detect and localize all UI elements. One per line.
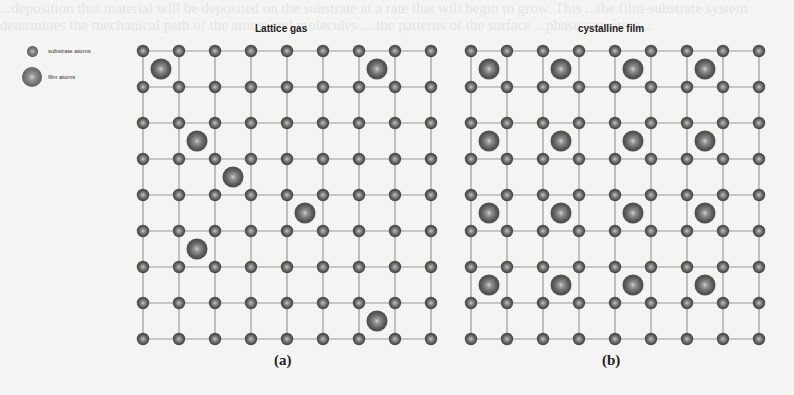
substrate-atom — [609, 225, 621, 237]
substrate-atom — [425, 189, 437, 201]
substrate-atom — [645, 45, 657, 57]
substrate-atom — [281, 81, 293, 93]
substrate-atom — [245, 225, 257, 237]
substrate-atom — [173, 153, 185, 165]
substrate-atom — [645, 153, 657, 165]
film-atom — [479, 131, 500, 152]
substrate-atom — [465, 189, 477, 201]
substrate-atom — [245, 333, 257, 345]
film-atom — [623, 203, 644, 224]
substrate-atom — [717, 189, 729, 201]
substrate-atom — [753, 261, 765, 273]
substrate-atom — [753, 333, 765, 345]
substrate-atom — [609, 297, 621, 309]
substrate-atom — [465, 261, 477, 273]
substrate-atom — [501, 189, 513, 201]
film-atom — [695, 59, 716, 80]
substrate-atom — [573, 153, 585, 165]
substrate-atom — [645, 81, 657, 93]
substrate-atom — [609, 81, 621, 93]
substrate-atom — [537, 333, 549, 345]
substrate-atom — [645, 297, 657, 309]
substrate-atom — [681, 189, 693, 201]
substrate-atom — [209, 333, 221, 345]
substrate-atom — [353, 297, 365, 309]
substrate-atom — [609, 333, 621, 345]
substrate-atom — [245, 153, 257, 165]
substrate-atom — [645, 225, 657, 237]
film-atom — [551, 131, 572, 152]
substrate-atom — [465, 297, 477, 309]
substrate-atom — [537, 297, 549, 309]
substrate-atom — [389, 153, 401, 165]
substrate-atom — [645, 117, 657, 129]
substrate-atom — [465, 45, 477, 57]
substrate-atom — [645, 261, 657, 273]
substrate-atom — [717, 261, 729, 273]
substrate-atom — [753, 45, 765, 57]
film-atom — [623, 275, 644, 296]
substrate-atom — [681, 117, 693, 129]
substrate-atom — [389, 297, 401, 309]
panel-a-caption: (a) — [274, 352, 292, 369]
film-atom — [187, 131, 208, 152]
substrate-atom — [245, 297, 257, 309]
substrate-atom — [501, 297, 513, 309]
substrate-atom — [353, 153, 365, 165]
substrate-atom — [317, 297, 329, 309]
substrate-atom — [173, 81, 185, 93]
substrate-atom — [681, 297, 693, 309]
substrate-atom — [281, 153, 293, 165]
substrate-atom — [317, 261, 329, 273]
substrate-atom — [173, 297, 185, 309]
substrate-atom — [465, 333, 477, 345]
substrate-atom — [317, 189, 329, 201]
substrate-atom — [317, 153, 329, 165]
film-atom — [367, 59, 388, 80]
substrate-atom — [281, 45, 293, 57]
substrate-atom — [353, 117, 365, 129]
substrate-atom — [281, 189, 293, 201]
substrate-atom — [137, 117, 149, 129]
substrate-atom — [137, 297, 149, 309]
substrate-atom — [173, 117, 185, 129]
substrate-atom — [645, 333, 657, 345]
substrate-atom — [501, 225, 513, 237]
substrate-atom — [501, 333, 513, 345]
substrate-atom — [645, 189, 657, 201]
substrate-atom — [137, 189, 149, 201]
substrate-atom — [425, 45, 437, 57]
substrate-atom — [537, 153, 549, 165]
substrate-atom — [281, 333, 293, 345]
film-atom — [695, 131, 716, 152]
substrate-atom — [501, 153, 513, 165]
substrate-atom — [317, 117, 329, 129]
film-atom — [623, 131, 644, 152]
substrate-atom — [353, 333, 365, 345]
substrate-atom — [501, 261, 513, 273]
substrate-atom — [353, 45, 365, 57]
substrate-atom — [173, 261, 185, 273]
substrate-atom — [573, 117, 585, 129]
substrate-atom — [573, 45, 585, 57]
substrate-atom — [753, 153, 765, 165]
substrate-atom — [389, 333, 401, 345]
substrate-atom — [717, 297, 729, 309]
substrate-atom — [609, 45, 621, 57]
substrate-atom — [717, 45, 729, 57]
substrate-atom — [573, 81, 585, 93]
substrate-atom — [245, 189, 257, 201]
substrate-atom — [173, 225, 185, 237]
substrate-atom — [681, 153, 693, 165]
film-atom — [367, 311, 388, 332]
substrate-atom — [173, 333, 185, 345]
substrate-atom — [209, 81, 221, 93]
lattice-figure — [0, 0, 794, 395]
film-atom — [479, 59, 500, 80]
panel-b-caption: (b) — [602, 352, 620, 369]
film-atom — [479, 203, 500, 224]
substrate-atom — [173, 45, 185, 57]
substrate-atom — [281, 225, 293, 237]
substrate-atom — [425, 153, 437, 165]
substrate-atom — [425, 117, 437, 129]
